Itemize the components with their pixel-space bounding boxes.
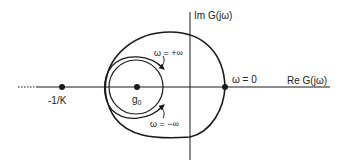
plus-inf-label: ω = +∞ xyxy=(154,48,183,58)
center-label: g0 xyxy=(132,94,142,106)
minus-inf-label: ω = −∞ xyxy=(150,119,179,129)
zero-freq-point xyxy=(222,84,228,90)
zero-freq-label: ω = 0 xyxy=(232,74,257,85)
critical-label: -1/K xyxy=(48,95,67,106)
leader-minus-inf xyxy=(162,108,164,118)
nyquist-diagram: -1/K g0 ω = 0 Re G(jω) Im G(jω) ω = +∞ ω… xyxy=(0,0,344,167)
center-point xyxy=(134,84,140,90)
imag-axis-label: Im G(jω) xyxy=(194,10,232,21)
critical-point xyxy=(59,84,65,90)
real-axis-label: Re G(jω) xyxy=(287,75,327,86)
double-arc xyxy=(105,57,164,119)
